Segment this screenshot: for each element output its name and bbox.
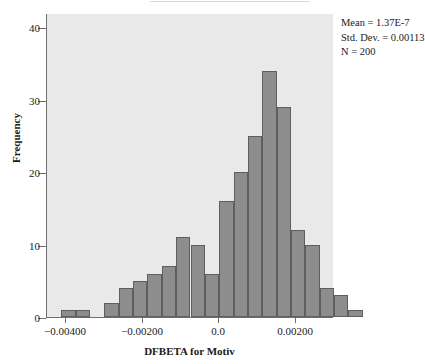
histogram-bar	[248, 136, 262, 317]
histogram-bar	[320, 288, 334, 317]
histogram-bar	[348, 310, 362, 317]
histogram-bar	[76, 310, 90, 317]
x-axis-tick	[142, 318, 143, 323]
y-axis-tick-label: 20	[0, 168, 40, 179]
histogram-bar	[147, 274, 161, 317]
histogram-bar	[133, 281, 147, 317]
bars-container	[47, 14, 333, 317]
y-axis-tick-label: 0	[0, 313, 40, 324]
histogram-bar	[234, 172, 248, 317]
stat-mean: Mean = 1.37E-7	[341, 16, 425, 31]
x-axis-tick	[65, 318, 66, 323]
x-axis-tick-label: 0.0	[183, 325, 253, 337]
histogram-bar	[219, 201, 233, 317]
plot-area	[46, 14, 333, 318]
x-axis-tick	[295, 318, 296, 323]
x-axis-tick-label: 0.00200	[260, 325, 330, 337]
histogram-bar	[334, 295, 348, 317]
x-axis-tick-label: −0.00200	[107, 325, 177, 337]
histogram-bar	[191, 245, 205, 317]
histogram-bar	[162, 266, 176, 317]
y-axis-tick-label: 10	[0, 241, 40, 252]
y-axis-tick-label: 40	[0, 23, 40, 34]
x-axis-title: DFBETA for Motiv	[46, 345, 333, 357]
x-axis-tick-label: −0.00400	[30, 325, 100, 337]
stat-n: N = 200	[341, 45, 425, 60]
histogram-bar	[291, 230, 305, 317]
histogram-bar	[119, 288, 133, 317]
histogram-bar	[277, 107, 291, 317]
histogram-bar	[305, 245, 319, 317]
stat-std-dev: Std. Dev. = 0.00113	[341, 31, 425, 46]
top-divider	[150, 1, 310, 2]
histogram-bar	[104, 303, 118, 317]
histogram-bar	[61, 310, 75, 317]
x-axis-tick	[218, 318, 219, 323]
histogram-bar	[205, 274, 219, 317]
stats-box: Mean = 1.37E-7 Std. Dev. = 0.00113 N = 2…	[341, 16, 425, 60]
y-axis-tick-label: 30	[0, 96, 40, 107]
histogram-bar	[176, 237, 190, 317]
histogram-bar	[262, 71, 276, 317]
